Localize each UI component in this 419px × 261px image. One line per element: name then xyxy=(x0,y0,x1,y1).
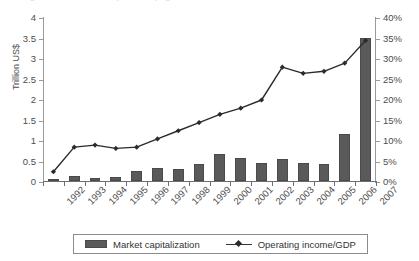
y-tick-label-right: 30% xyxy=(383,54,402,64)
diamond-marker-icon xyxy=(155,136,160,141)
x-tick-label: 2006 xyxy=(356,184,379,207)
x-tick-label: 2003 xyxy=(294,184,317,207)
diamond-marker-icon xyxy=(238,106,243,111)
x-tick xyxy=(376,182,377,186)
bar-swatch-icon xyxy=(85,240,107,248)
x-tick-label: 1998 xyxy=(189,184,212,207)
y-tick-label-left: 3.5 xyxy=(23,34,36,44)
legend-item-market-capitalization: Market capitalization xyxy=(85,239,200,250)
y-tick-right xyxy=(376,162,380,163)
chart-legend: Market capitalization Operating income/G… xyxy=(73,234,368,254)
y-tick-label-right: 35% xyxy=(383,34,402,44)
y-tick-right xyxy=(376,59,380,60)
line-marker-swatch-icon xyxy=(226,240,252,248)
y-tick-right xyxy=(376,121,380,122)
x-tick-label: 1992 xyxy=(65,184,88,207)
y-tick-right xyxy=(376,80,380,81)
y-tick-label-right: 5% xyxy=(383,157,397,167)
y-tick-right xyxy=(376,18,380,19)
y-tick-right xyxy=(376,141,380,142)
x-tick-label: 1995 xyxy=(127,184,150,207)
diamond-marker-icon xyxy=(321,69,326,74)
line-markers xyxy=(51,38,368,174)
x-tick-label: 1996 xyxy=(148,184,171,207)
x-tick-label: 1997 xyxy=(169,184,192,207)
diamond-marker-icon xyxy=(113,146,118,151)
line-path xyxy=(53,41,365,172)
y-tick-label-right: 40% xyxy=(383,13,402,23)
y-tick-label-right: 10% xyxy=(383,136,402,146)
y-tick-label-left: 4 xyxy=(31,13,36,23)
cutoff-text: Figure continued from previous page xyxy=(22,0,176,1)
diamond-marker-icon xyxy=(92,143,97,148)
cutoff-text-sliver: Figure continued from previous page xyxy=(0,0,419,9)
y-tick-label-right: 20% xyxy=(383,95,402,105)
x-tick-label: 2004 xyxy=(314,184,337,207)
legend-label: Market capitalization xyxy=(113,239,200,250)
y-tick-label-left: 2 xyxy=(31,95,36,105)
x-tick-label: 1999 xyxy=(210,184,233,207)
legend-label: Operating income/GDP xyxy=(258,239,356,250)
diamond-marker-icon xyxy=(217,112,222,117)
diamond-marker-icon xyxy=(134,145,139,150)
y-axis-title-left: Trillion US$ xyxy=(11,7,21,127)
diamond-marker-icon xyxy=(176,128,181,133)
legend-item-operating-income-gdp: Operating income/GDP xyxy=(226,239,356,250)
x-tick-label: 2001 xyxy=(252,184,275,207)
x-tick-label: 2005 xyxy=(335,184,358,207)
y-tick-label-left: 1.5 xyxy=(23,116,36,126)
y-tick-label-right: 25% xyxy=(383,75,402,85)
diamond-marker-icon xyxy=(235,240,242,247)
y-tick-right xyxy=(376,100,380,101)
x-tick-label: 2007 xyxy=(377,184,400,207)
y-tick-label-left: 0 xyxy=(31,177,36,187)
diamond-marker-icon xyxy=(196,120,201,125)
plot-area: 00.511.522.533.54 0%5%10%15%20%25%30%35%… xyxy=(43,17,376,182)
x-tick-label: 1994 xyxy=(106,184,129,207)
y-tick-label-left: 2.5 xyxy=(23,75,36,85)
y-tick-right xyxy=(376,39,380,40)
x-axis-tick-labels: 1992199319941995199619971998199920002001… xyxy=(43,184,376,224)
x-tick-label: 2000 xyxy=(231,184,254,207)
diamond-marker-icon xyxy=(301,71,306,76)
line-series-operating-income-gdp xyxy=(43,17,376,182)
y-tick-label-left: 3 xyxy=(31,54,36,64)
x-tick-label: 2002 xyxy=(273,184,296,207)
y-tick-label-left: 1 xyxy=(31,136,36,146)
y-tick-label-right: 15% xyxy=(383,116,402,126)
y-tick-label-left: 0.5 xyxy=(23,157,36,167)
chart-figure: Figure continued from previous page Tril… xyxy=(0,0,419,261)
x-tick-label: 1993 xyxy=(85,184,108,207)
